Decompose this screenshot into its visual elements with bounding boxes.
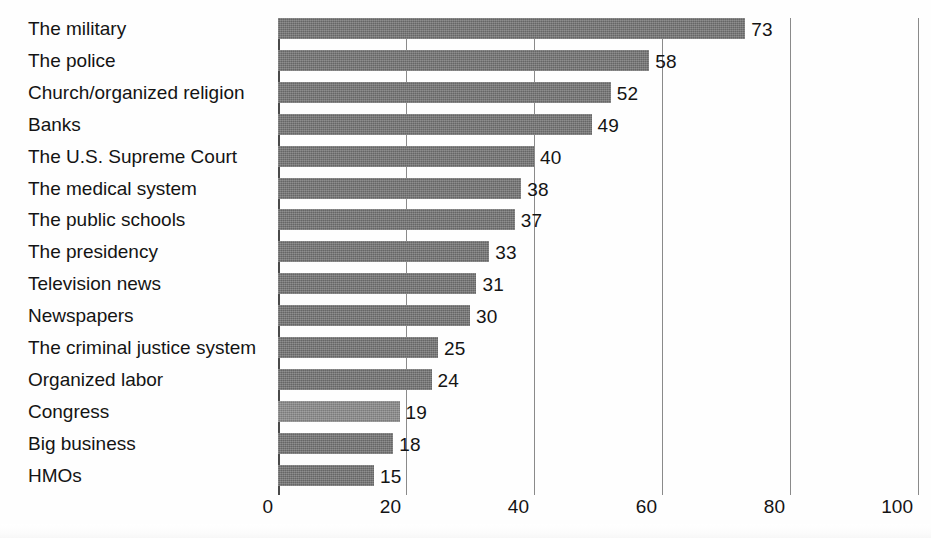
- bar-row: 37: [278, 209, 918, 230]
- bar-value-label: 52: [617, 83, 639, 102]
- bar-value-label: 19: [406, 402, 428, 421]
- bar-row: 31: [278, 273, 918, 294]
- bar: [278, 82, 611, 103]
- x-tick-label-40: 40: [508, 497, 534, 516]
- bar-value-label: 58: [655, 51, 677, 70]
- bar: [278, 146, 534, 167]
- bar-value-label: 18: [399, 434, 421, 453]
- category-label: The military: [28, 18, 126, 39]
- bar-chart: The militaryThe policeChurch/organized r…: [0, 0, 931, 538]
- bar-row: 52: [278, 82, 918, 103]
- plot-area: 735852494038373331302524191815: [278, 18, 918, 495]
- bar-row: 15: [278, 465, 918, 486]
- category-label: The criminal justice system: [28, 337, 256, 358]
- bar-value-label: 25: [444, 338, 466, 357]
- bar: [278, 465, 374, 486]
- bar-value-label: 73: [751, 19, 773, 38]
- bar-value-label: 15: [380, 466, 402, 485]
- bar-row: 58: [278, 50, 918, 71]
- x-tick-label-0: 0: [262, 497, 278, 516]
- category-label: Church/organized religion: [28, 82, 245, 103]
- bar-row: 38: [278, 178, 918, 199]
- bar: [278, 369, 432, 390]
- x-tick-label-20: 20: [380, 497, 406, 516]
- category-label: Big business: [28, 433, 136, 454]
- bar: [278, 209, 515, 230]
- bar-value-label: 38: [527, 179, 549, 198]
- bar: [278, 401, 400, 422]
- bar-row: 49: [278, 114, 918, 135]
- bar-row: 24: [278, 369, 918, 390]
- bar-value-label: 33: [495, 242, 517, 261]
- category-label: Newspapers: [28, 305, 134, 326]
- bar-value-label: 49: [598, 115, 620, 134]
- category-label: Organized labor: [28, 369, 163, 390]
- bar: [278, 273, 476, 294]
- bar: [278, 50, 649, 71]
- bar-value-label: 40: [540, 147, 562, 166]
- x-axis: 020406080100: [0, 497, 931, 527]
- bar-row: 19: [278, 401, 918, 422]
- bar: [278, 178, 521, 199]
- category-label: The police: [28, 50, 116, 71]
- category-label: The public schools: [28, 209, 185, 230]
- bar-row: 33: [278, 241, 918, 262]
- bar-row: 40: [278, 146, 918, 167]
- bar-row: 30: [278, 305, 918, 326]
- bar-value-label: 24: [438, 370, 460, 389]
- category-axis-labels: The militaryThe policeChurch/organized r…: [0, 18, 272, 495]
- bar: [278, 337, 438, 358]
- bar-row: 73: [278, 18, 918, 39]
- x-tick-label-80: 80: [764, 497, 790, 516]
- bar-value-label: 31: [482, 274, 504, 293]
- category-label: The presidency: [28, 241, 158, 262]
- bar-value-label: 30: [476, 306, 498, 325]
- bar: [278, 114, 592, 135]
- category-label: Banks: [28, 114, 81, 135]
- category-label: Television news: [28, 273, 161, 294]
- bar: [278, 241, 489, 262]
- bar-row: 18: [278, 433, 918, 454]
- category-label: The U.S. Supreme Court: [28, 146, 237, 167]
- scan-artifact: [0, 524, 931, 538]
- category-label: The medical system: [28, 178, 197, 199]
- category-label: Congress: [28, 401, 109, 422]
- category-label: HMOs: [28, 465, 82, 486]
- bar: [278, 18, 745, 39]
- x-tick-label-60: 60: [636, 497, 662, 516]
- bar-value-label: 37: [521, 210, 543, 229]
- x-tick-label-100: 100: [881, 497, 918, 516]
- gridline-100: [918, 18, 919, 495]
- bar: [278, 433, 393, 454]
- bar-row: 25: [278, 337, 918, 358]
- bar: [278, 305, 470, 326]
